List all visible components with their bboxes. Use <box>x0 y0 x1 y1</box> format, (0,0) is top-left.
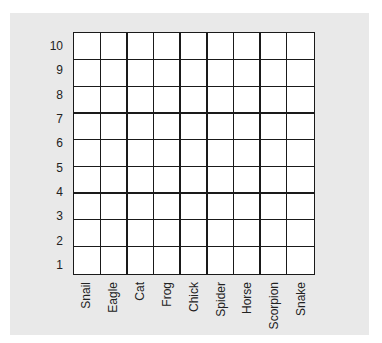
y-axis-label: 8 <box>33 88 63 102</box>
x-axis-label-text: Spider <box>214 282 228 317</box>
y-axis-label: 10 <box>33 39 63 53</box>
grid-horizontal-line <box>74 86 314 88</box>
grid-vertical-line <box>179 33 181 274</box>
grid-horizontal-line <box>74 246 314 248</box>
grid-horizontal-line <box>74 166 314 168</box>
x-axis-label: Snail <box>73 282 99 342</box>
y-axis-label: 7 <box>33 112 63 126</box>
y-axis-label: 3 <box>33 209 63 223</box>
x-axis-label-text: Eagle <box>106 282 120 313</box>
grid-vertical-line <box>286 33 288 274</box>
x-axis-label-text: Chick <box>187 282 201 312</box>
x-axis-label-text: Snake <box>294 282 308 316</box>
x-axis-label-text: Horse <box>240 282 254 314</box>
y-axis-label: 2 <box>33 234 63 248</box>
blank-bar-graph-grid <box>73 32 315 275</box>
grid-horizontal-line <box>74 219 314 221</box>
grid-vertical-line <box>233 33 235 274</box>
x-axis-label: Frog <box>154 282 180 342</box>
x-axis-label: Cat <box>127 282 153 342</box>
grid-vertical-line <box>126 33 128 274</box>
grid-horizontal-line <box>74 192 314 194</box>
grid-horizontal-line <box>74 59 314 61</box>
grid-vertical-line <box>153 33 155 274</box>
y-axis-label: 6 <box>33 136 63 150</box>
x-axis-label: Scorpion <box>261 282 287 342</box>
y-axis-label: 1 <box>33 258 63 272</box>
x-axis-label-text: Snail <box>79 282 93 309</box>
grid-horizontal-line <box>74 139 314 141</box>
x-axis-label-text: Frog <box>160 282 174 307</box>
grid-vertical-line <box>259 33 261 274</box>
y-axis-label: 9 <box>33 63 63 77</box>
x-axis-label-text: Cat <box>133 282 147 301</box>
x-axis-label: Spider <box>208 282 234 342</box>
y-axis-label: 5 <box>33 161 63 175</box>
x-axis-label: Horse <box>234 282 260 342</box>
x-axis-label: Eagle <box>100 282 126 342</box>
grid-horizontal-line <box>74 112 314 114</box>
x-axis-label: Snake <box>288 282 314 342</box>
x-axis-label: Chick <box>181 282 207 342</box>
x-axis-label-text: Scorpion <box>267 282 281 329</box>
grid-vertical-line <box>206 33 208 274</box>
y-axis-label: 4 <box>33 185 63 199</box>
grid-vertical-line <box>100 33 102 274</box>
